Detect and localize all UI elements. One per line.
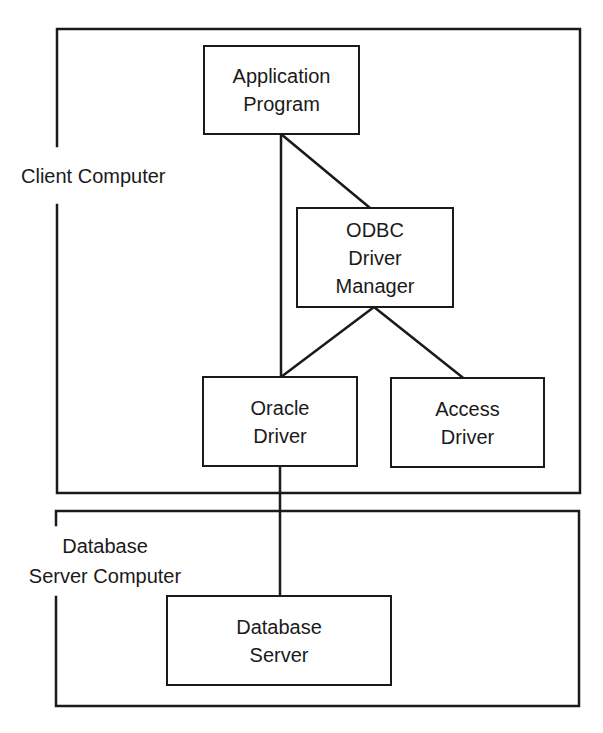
edge-app-to-odbc — [281, 134, 370, 208]
server-computer-label: Database Server Computer — [17, 531, 193, 591]
edge-odbc-to-access — [374, 307, 462, 377]
node-label-line: Driver — [348, 244, 401, 272]
node-label-line: Program — [243, 90, 320, 118]
node-label-line: Server — [250, 641, 309, 669]
node-label-line: Oracle — [251, 394, 310, 422]
client-computer-label-text: Client Computer — [21, 161, 166, 191]
node-label-line: ODBC — [346, 216, 404, 244]
node-label-line: Manager — [336, 272, 415, 300]
node-label-line: Driver — [441, 423, 494, 451]
database-server-node: Database Server — [166, 595, 392, 686]
odbc-driver-manager-node: ODBC Driver Manager — [296, 207, 454, 308]
server-computer-label-line2: Server Computer — [17, 561, 193, 591]
application-program-node: Application Program — [203, 45, 360, 135]
node-label-line: Application — [233, 62, 331, 90]
access-driver-node: Access Driver — [390, 377, 545, 468]
node-label-line: Access — [435, 395, 499, 423]
edge-odbc-to-oracle — [281, 307, 374, 377]
oracle-driver-node: Oracle Driver — [202, 376, 358, 467]
node-label-line: Database — [236, 613, 322, 641]
server-computer-label-line1: Database — [17, 531, 193, 561]
node-label-line: Driver — [253, 422, 306, 450]
client-computer-label: Client Computer — [21, 161, 166, 191]
